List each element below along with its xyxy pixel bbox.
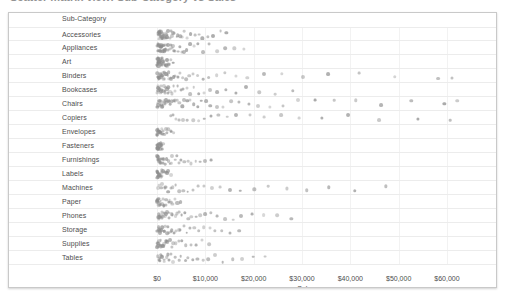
data-point[interactable]: [416, 117, 419, 120]
data-point[interactable]: [210, 186, 214, 190]
data-point[interactable]: [223, 217, 227, 221]
category-row[interactable]: Machines: [9, 181, 496, 195]
data-point[interactable]: [220, 229, 224, 233]
data-point[interactable]: [211, 34, 215, 38]
data-point[interactable]: [181, 105, 184, 108]
data-point[interactable]: [267, 185, 270, 188]
data-point[interactable]: [163, 214, 167, 218]
data-point[interactable]: [244, 85, 248, 89]
data-point[interactable]: [183, 211, 186, 214]
data-point[interactable]: [184, 77, 188, 81]
data-point[interactable]: [206, 35, 209, 38]
data-point[interactable]: [305, 189, 309, 193]
data-point[interactable]: [234, 113, 238, 117]
data-point[interactable]: [262, 214, 266, 218]
data-point[interactable]: [209, 115, 212, 118]
data-point[interactable]: [384, 185, 387, 188]
data-point[interactable]: [275, 213, 279, 217]
data-point[interactable]: [180, 239, 183, 242]
data-point[interactable]: [180, 214, 183, 217]
data-point[interactable]: [188, 42, 192, 46]
data-point[interactable]: [221, 261, 224, 264]
data-point[interactable]: [180, 36, 183, 39]
data-point[interactable]: [188, 98, 191, 101]
data-point[interactable]: [186, 256, 189, 259]
data-point[interactable]: [189, 226, 192, 229]
data-point[interactable]: [171, 260, 175, 264]
category-row[interactable]: Furnishings: [9, 153, 496, 167]
category-row[interactable]: Copiers: [9, 111, 496, 125]
data-point[interactable]: [239, 214, 243, 218]
data-point[interactable]: [296, 98, 300, 102]
data-point[interactable]: [177, 189, 181, 193]
data-point[interactable]: [243, 47, 246, 50]
data-point[interactable]: [232, 219, 235, 222]
data-point[interactable]: [189, 32, 193, 36]
data-point[interactable]: [164, 163, 167, 166]
data-point[interactable]: [215, 90, 219, 94]
data-point[interactable]: [183, 160, 186, 163]
data-point[interactable]: [203, 117, 206, 120]
data-point[interactable]: [185, 48, 189, 52]
data-point[interactable]: [174, 184, 177, 187]
data-point[interactable]: [197, 229, 201, 233]
data-point[interactable]: [161, 174, 164, 177]
data-point[interactable]: [258, 90, 262, 94]
data-point[interactable]: [455, 99, 459, 103]
data-point[interactable]: [172, 85, 175, 88]
data-point[interactable]: [174, 89, 177, 92]
data-point[interactable]: [377, 118, 381, 122]
data-point[interactable]: [327, 185, 330, 188]
category-row[interactable]: Chairs: [9, 97, 496, 111]
data-point[interactable]: [197, 119, 201, 123]
data-point[interactable]: [185, 87, 188, 90]
data-point[interactable]: [226, 116, 229, 119]
data-point[interactable]: [268, 105, 271, 108]
data-point[interactable]: [187, 74, 191, 78]
data-point[interactable]: [192, 73, 195, 76]
data-point[interactable]: [263, 255, 266, 258]
data-point[interactable]: [229, 100, 233, 104]
data-point[interactable]: [262, 72, 266, 76]
data-point[interactable]: [163, 260, 166, 263]
data-point[interactable]: [186, 190, 189, 193]
data-point[interactable]: [333, 99, 336, 102]
data-point[interactable]: [184, 259, 188, 263]
data-point[interactable]: [207, 76, 211, 80]
data-point[interactable]: [206, 257, 210, 261]
data-point[interactable]: [201, 239, 204, 242]
category-row[interactable]: Envelopes: [9, 125, 496, 139]
data-point[interactable]: [223, 71, 226, 74]
category-row[interactable]: Tables: [9, 251, 496, 265]
data-point[interactable]: [196, 105, 199, 108]
data-point[interactable]: [158, 259, 161, 262]
data-point[interactable]: [346, 113, 350, 117]
data-point[interactable]: [172, 61, 175, 64]
data-point[interactable]: [358, 72, 361, 75]
data-point[interactable]: [450, 77, 453, 80]
data-point[interactable]: [189, 162, 192, 165]
data-point[interactable]: [195, 244, 198, 247]
data-point[interactable]: [161, 142, 165, 146]
data-point[interactable]: [225, 88, 228, 91]
data-point[interactable]: [240, 257, 244, 261]
data-point[interactable]: [166, 225, 169, 228]
data-point[interactable]: [179, 229, 182, 232]
category-row[interactable]: Art: [9, 55, 496, 69]
data-point[interactable]: [326, 72, 330, 76]
data-point[interactable]: [193, 34, 196, 37]
category-row[interactable]: Supplies: [9, 237, 496, 251]
data-point[interactable]: [196, 74, 200, 78]
data-point[interactable]: [208, 43, 211, 46]
data-point[interactable]: [178, 71, 181, 74]
data-point[interactable]: [167, 70, 171, 74]
data-point[interactable]: [186, 37, 189, 40]
data-point[interactable]: [202, 259, 205, 262]
data-point[interactable]: [194, 160, 197, 163]
category-row[interactable]: Fasteners: [9, 139, 496, 153]
data-point[interactable]: [239, 189, 242, 192]
data-point[interactable]: [181, 118, 185, 122]
data-point[interactable]: [198, 33, 201, 36]
data-point[interactable]: [171, 202, 174, 205]
data-point[interactable]: [181, 87, 184, 90]
